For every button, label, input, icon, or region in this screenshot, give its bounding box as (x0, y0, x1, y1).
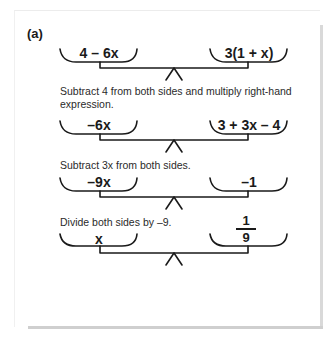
right-fraction-4: 1 9 (236, 214, 256, 244)
right-expression-2: 3 + 3x – 4 (212, 117, 286, 133)
beam-4 (100, 246, 248, 253)
fulcrum-3 (166, 197, 182, 209)
right-expression-1: 3(1 + x) (212, 45, 286, 61)
fulcrum-1 (166, 68, 182, 80)
right-expression-3: –1 (212, 174, 286, 190)
step-text-2: Subtract 3x from both sides. (60, 159, 300, 172)
left-expression-3: –9x (62, 174, 136, 190)
fraction-denominator: 9 (236, 230, 256, 244)
beam-1 (100, 62, 248, 68)
fulcrum-4 (166, 253, 182, 265)
step-text-1: Subtract 4 from both sides and multiply … (60, 85, 300, 111)
fulcrum-2 (166, 140, 182, 152)
left-expression-4: x (62, 231, 136, 247)
beam-2 (100, 134, 248, 140)
left-expression-1: 4 – 6x (62, 45, 136, 61)
beam-3 (100, 191, 248, 197)
fraction-numerator: 1 (236, 214, 256, 230)
step-text-3: Divide both sides by –9. (60, 216, 300, 229)
left-expression-2: –6x (62, 117, 136, 133)
